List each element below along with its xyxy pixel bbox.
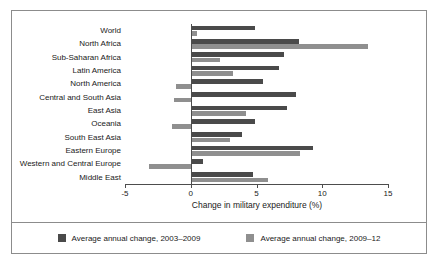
legend-swatch-icon — [58, 234, 66, 242]
x-tick-mark — [191, 184, 192, 188]
legend-item: Average annual change, 2003–2009 — [58, 234, 201, 243]
bar-series-1 — [191, 178, 269, 183]
x-tick-label: 10 — [318, 189, 327, 199]
x-tick-label: 5 — [254, 189, 258, 199]
category-label: Sub-Saharan Africa — [52, 51, 125, 64]
category-label: North Africa — [79, 37, 125, 50]
bar-series-0 — [191, 39, 299, 44]
category-label: Oceania — [91, 117, 125, 130]
x-tick-label: 15 — [384, 189, 393, 199]
bar-series-0 — [191, 79, 263, 84]
chart-row: World — [125, 24, 388, 37]
legend-label: Average annual change, 2009–12 — [260, 234, 380, 243]
chart-row: North America — [125, 77, 388, 90]
chart-row: Central and South Asia — [125, 91, 388, 104]
legend-item: Average annual change, 2009–12 — [246, 234, 380, 243]
bar-series-0 — [191, 146, 313, 151]
chart-row: Middle East — [125, 171, 388, 184]
chart-row: North Africa — [125, 37, 388, 50]
bar-series-0 — [191, 132, 242, 137]
category-label: East Asia — [88, 104, 125, 117]
category-label: Eastern Europe — [65, 144, 125, 157]
category-label: Western and Central Europe — [20, 157, 125, 170]
chart-row: East Asia — [125, 104, 388, 117]
bar-series-1 — [191, 58, 220, 63]
chart-row: Oceania — [125, 117, 388, 130]
x-tick-mark — [322, 184, 323, 188]
bar-series-1 — [191, 71, 233, 76]
bar-series-0 — [191, 26, 255, 31]
chart-row: South East Asia — [125, 131, 388, 144]
category-label: Latin America — [73, 64, 125, 77]
category-label: World — [100, 24, 125, 37]
chart-row: Latin America — [125, 64, 388, 77]
chart-figure: WorldNorth AfricaSub-Saharan AfricaLatin… — [0, 0, 438, 263]
bar-series-0 — [191, 119, 255, 124]
bar-series-1 — [174, 98, 191, 103]
legend-label: Average annual change, 2003–2009 — [72, 234, 201, 243]
bar-series-1 — [191, 138, 230, 143]
chart-legend: Average annual change, 2003–2009Average … — [11, 223, 427, 253]
bar-series-1 — [172, 124, 190, 129]
zero-axis-line — [191, 24, 192, 185]
x-tick-label: 0 — [189, 189, 193, 199]
x-axis-title: Change in military expenditure (%) — [125, 200, 389, 210]
bar-series-0 — [191, 52, 284, 57]
chart-row: Sub-Saharan Africa — [125, 51, 388, 64]
category-label: North America — [70, 77, 125, 90]
bar-series-0 — [191, 92, 296, 97]
chart-row: Eastern Europe — [125, 144, 388, 157]
bar-series-0 — [191, 172, 253, 177]
bar-series-0 — [191, 66, 279, 71]
chart-row: Western and Central Europe — [125, 157, 388, 170]
legend-swatch-icon — [246, 234, 254, 242]
category-label: Middle East — [79, 171, 125, 184]
category-label: South East Asia — [65, 131, 125, 144]
x-tick-mark — [388, 184, 389, 188]
x-tick-mark — [257, 184, 258, 188]
x-tick-mark — [125, 184, 126, 188]
bar-series-1 — [191, 111, 246, 116]
x-tick-label: -5 — [121, 189, 128, 199]
bar-series-1 — [191, 151, 300, 156]
category-label: Central and South Asia — [39, 91, 125, 104]
bar-series-0 — [191, 159, 203, 164]
bar-series-1 — [149, 164, 191, 169]
plot-area: WorldNorth AfricaSub-Saharan AfricaLatin… — [125, 24, 388, 184]
bar-series-0 — [191, 106, 287, 111]
bar-series-1 — [176, 84, 190, 89]
bar-series-1 — [191, 44, 369, 49]
